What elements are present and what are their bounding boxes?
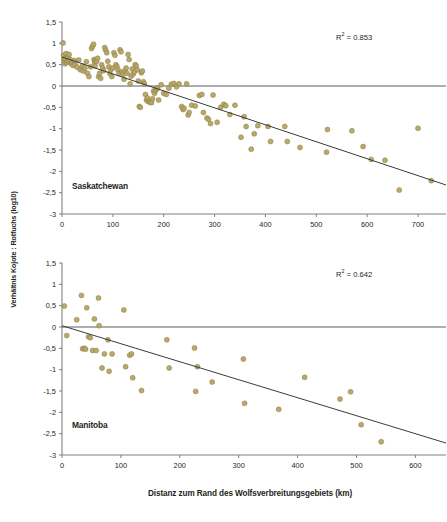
data-point <box>215 120 220 125</box>
data-point <box>94 348 99 353</box>
data-point <box>138 105 143 110</box>
data-point <box>241 357 246 362</box>
x-tick-label: 400 <box>259 220 271 229</box>
r2-value: = 0.853 <box>347 33 373 42</box>
data-point <box>102 351 107 356</box>
chart-panel-saskatchewan: 1,510,50-0,5-1-1,5-2-2,5-301002003004005… <box>18 8 447 248</box>
data-point <box>244 124 249 129</box>
data-point <box>249 147 254 152</box>
data-point <box>252 131 257 136</box>
data-point <box>140 69 145 74</box>
y-tick-label: -3 <box>49 451 56 460</box>
data-point <box>107 369 112 374</box>
data-point <box>64 333 69 338</box>
data-point <box>379 439 384 444</box>
data-point <box>130 375 135 380</box>
data-point <box>86 74 91 79</box>
r-squared-annotation-manitoba: R2 = 0.642 <box>336 268 372 279</box>
data-point <box>167 365 172 370</box>
x-tick-label: 600 <box>409 461 421 470</box>
x-tick-label: 0 <box>60 220 64 229</box>
y-tick-label: -2,5 <box>43 429 56 438</box>
data-point <box>67 52 72 57</box>
r2-exponent: 2 <box>341 268 344 274</box>
data-point <box>223 103 228 108</box>
data-point <box>121 307 126 312</box>
data-point <box>192 345 197 350</box>
data-point <box>164 337 169 342</box>
data-point <box>184 81 189 86</box>
x-tick-label: 200 <box>174 461 186 470</box>
data-point <box>105 59 110 64</box>
data-point <box>110 351 115 356</box>
x-tick-label: 0 <box>60 461 64 470</box>
data-point <box>126 52 131 57</box>
data-point <box>201 110 206 115</box>
x-tick-label: 700 <box>412 220 424 229</box>
x-axis-label: Distanz zum Rand des Wolfsverbreitungsge… <box>60 489 440 498</box>
data-points-group <box>61 40 434 192</box>
figure-container: Verhältnis Kojote : Rotfuchs (log10) 1,5… <box>0 0 447 522</box>
data-point <box>397 188 402 193</box>
data-point <box>193 104 198 109</box>
data-point <box>98 76 103 81</box>
data-point <box>88 335 93 340</box>
y-tick-label: -2 <box>49 408 56 417</box>
data-point <box>199 92 204 97</box>
y-tick-label: -1 <box>49 124 56 133</box>
data-point <box>139 388 144 393</box>
data-point <box>156 98 161 103</box>
data-point <box>127 57 132 62</box>
chart-panel-manitoba: 1,510,50-0,5-1-1,5-2-2,5-301002003004005… <box>18 255 447 487</box>
data-point <box>74 317 79 322</box>
y-tick-label: 1 <box>52 280 56 289</box>
data-point <box>282 124 287 129</box>
data-point <box>242 401 247 406</box>
data-point <box>255 123 260 128</box>
data-point <box>124 66 129 71</box>
data-point <box>208 121 213 126</box>
data-point <box>123 364 128 369</box>
regression-trendline <box>62 57 446 185</box>
data-point <box>95 56 100 61</box>
data-point <box>187 110 192 115</box>
data-point <box>239 135 244 140</box>
x-tick-label: 300 <box>233 461 245 470</box>
y-tick-label: -1 <box>49 365 56 374</box>
data-point <box>104 50 109 55</box>
data-point <box>193 389 198 394</box>
y-tick-label: 0 <box>52 323 56 332</box>
data-point <box>79 293 84 298</box>
data-point <box>359 422 364 427</box>
y-tick-label: -1,5 <box>43 146 56 155</box>
y-tick-label: 0 <box>52 82 56 91</box>
x-tick-label: 500 <box>350 461 362 470</box>
x-tick-label: 500 <box>310 220 322 229</box>
data-point <box>348 389 353 394</box>
y-tick-label: -1,5 <box>43 387 56 396</box>
data-point <box>361 144 366 149</box>
y-tick-label: -2,5 <box>43 188 56 197</box>
data-point <box>112 53 117 58</box>
data-point <box>84 59 89 64</box>
data-point <box>62 304 67 309</box>
data-point <box>324 150 329 155</box>
data-point <box>61 40 66 45</box>
data-point <box>337 397 342 402</box>
data-point <box>285 139 290 144</box>
scatter-plot-saskatchewan: 1,510,50-0,5-1-1,5-2-2,5-301002003004005… <box>18 8 447 248</box>
x-tick-label: 400 <box>291 461 303 470</box>
data-point <box>84 305 89 310</box>
data-point <box>150 96 155 101</box>
y-tick-label: 1,5 <box>46 18 56 27</box>
data-point <box>100 365 105 370</box>
data-point <box>302 375 307 380</box>
data-point <box>176 81 181 86</box>
data-point <box>92 316 97 321</box>
data-point <box>83 347 88 352</box>
y-axis-label: Verhältnis Kojote : Rotfuchs (log10) <box>9 134 18 366</box>
x-tick-label: 100 <box>115 461 127 470</box>
data-point <box>182 106 187 111</box>
x-tick-label: 100 <box>107 220 119 229</box>
data-point <box>268 139 273 144</box>
